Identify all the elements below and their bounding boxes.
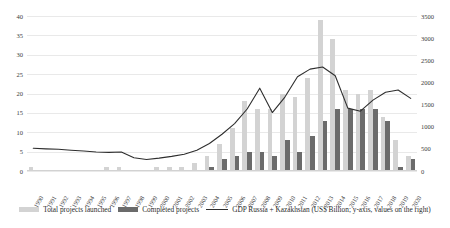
bar-slot bbox=[102, 16, 115, 171]
bar-completed-projects bbox=[323, 121, 328, 171]
bar-slot bbox=[216, 16, 229, 171]
legend-item-completed-projects: Completed projects bbox=[118, 205, 199, 214]
left-axis-tick-label: 20 bbox=[17, 90, 24, 97]
legend-swatch-total-projects bbox=[19, 207, 39, 212]
bar-completed-projects bbox=[348, 109, 353, 171]
bar-completed-projects bbox=[360, 109, 365, 171]
bar-slot bbox=[77, 16, 90, 171]
bar-slot bbox=[253, 16, 266, 171]
right-axis-tick-label: 3500 bbox=[421, 13, 434, 20]
bar-completed-projects bbox=[247, 152, 252, 171]
legend-item-total-projects: Total projects launched bbox=[19, 205, 111, 214]
bar-slot bbox=[379, 16, 392, 171]
left-axis-tick-label: 25 bbox=[17, 71, 24, 78]
bar-slot bbox=[266, 16, 279, 171]
legend-label-gdp-line: GDP Russia + Kazakhstan (US$ Billion; y-… bbox=[232, 205, 431, 214]
right-axis-tick-label: 1000 bbox=[421, 123, 434, 130]
legend-label-completed-projects: Completed projects bbox=[142, 205, 199, 214]
bar-slot bbox=[367, 16, 380, 171]
bar-slot bbox=[241, 16, 254, 171]
bar-slot bbox=[341, 16, 354, 171]
left-axis-tick-label: 15 bbox=[17, 109, 24, 116]
bar-slot bbox=[404, 16, 417, 171]
right-axis-tick-label: 3000 bbox=[421, 35, 434, 42]
bar-slot bbox=[115, 16, 128, 171]
bar-completed-projects bbox=[260, 152, 265, 171]
bar-slot bbox=[153, 16, 166, 171]
right-axis-tick-label: 2500 bbox=[421, 57, 434, 64]
legend-item-gdp-line: GDP Russia + Kazakhstan (US$ Billion; y-… bbox=[206, 205, 431, 214]
bar-slot bbox=[354, 16, 367, 171]
bar-slot bbox=[191, 16, 204, 171]
legend-swatch-gdp-line bbox=[206, 209, 228, 210]
bar-slot bbox=[316, 16, 329, 171]
bar-slot bbox=[90, 16, 103, 171]
bar-completed-projects bbox=[373, 109, 378, 171]
left-axis-tick-label: 35 bbox=[17, 32, 24, 39]
bar-slot bbox=[304, 16, 317, 171]
plot-area: 0510152025303540 05001000150020002500300… bbox=[27, 16, 417, 171]
bar-slot bbox=[228, 16, 241, 171]
bar-slot bbox=[165, 16, 178, 171]
right-axis-tick-label: 0 bbox=[421, 168, 424, 175]
bar-slot bbox=[40, 16, 53, 171]
left-axis-tick-label: 30 bbox=[17, 51, 24, 58]
left-axis-tick-label: 0 bbox=[20, 168, 23, 175]
bar-slot bbox=[140, 16, 153, 171]
bar-completed-projects bbox=[385, 121, 390, 171]
bar-completed-projects bbox=[285, 140, 290, 171]
left-axis-tick-label: 10 bbox=[17, 129, 24, 136]
x-axis-baseline bbox=[27, 170, 417, 171]
right-axis-tick-label: 1500 bbox=[421, 101, 434, 108]
bar-slot bbox=[392, 16, 405, 171]
legend-swatch-completed-projects bbox=[118, 207, 138, 212]
chart-container: 0510152025303540 05001000150020002500300… bbox=[0, 0, 450, 228]
left-axis-tick-label: 5 bbox=[20, 148, 23, 155]
bar-completed-projects bbox=[297, 152, 302, 171]
chart-legend: Total projects launched Completed projec… bbox=[0, 205, 450, 214]
bar-slot bbox=[178, 16, 191, 171]
bar-slot bbox=[27, 16, 40, 171]
bar-completed-projects bbox=[272, 156, 277, 172]
legend-label-total-projects: Total projects launched bbox=[43, 205, 111, 214]
bar-slot bbox=[203, 16, 216, 171]
x-axis-labels: 1990199119921993199419951996199719981999… bbox=[27, 172, 417, 198]
right-axis-tick-label: 500 bbox=[421, 145, 431, 152]
left-axis-tick-label: 40 bbox=[17, 13, 24, 20]
bar-slot bbox=[329, 16, 342, 171]
bar-completed-projects bbox=[235, 156, 240, 172]
bar-slot bbox=[52, 16, 65, 171]
bar-group bbox=[27, 16, 417, 171]
bar-completed-projects bbox=[335, 109, 340, 171]
bar-completed-projects bbox=[310, 136, 315, 171]
bar-slot bbox=[128, 16, 141, 171]
bar-slot bbox=[279, 16, 292, 171]
bar-slot bbox=[291, 16, 304, 171]
bar-slot bbox=[65, 16, 78, 171]
right-axis-tick-label: 2000 bbox=[421, 79, 434, 86]
